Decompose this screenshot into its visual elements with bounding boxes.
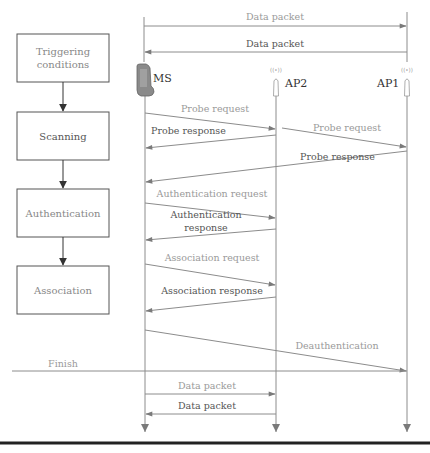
phase-box-triggering: Triggering conditions: [17, 34, 109, 82]
ap1-node: ((•)) AP1: [376, 67, 413, 96]
svg-text:((•)): ((•)): [270, 67, 282, 73]
ap2-node: ((•)) AP2: [270, 67, 307, 96]
handover-sequence-diagram: Triggering conditions Scanning Authentic…: [0, 0, 430, 453]
message-association-response: Association response: [146, 285, 276, 311]
phase-label-scanning: Scanning: [39, 131, 87, 142]
access-point-icon: ((•)): [401, 67, 413, 96]
message-data-packet-bottom-2: Data packet: [146, 400, 276, 414]
svg-text:Deauthentication: Deauthentication: [295, 340, 378, 351]
svg-text:response: response: [184, 222, 228, 233]
ap1-label: AP1: [376, 77, 399, 90]
svg-text:Probe request: Probe request: [181, 103, 249, 114]
svg-text:Authentication request: Authentication request: [156, 188, 268, 199]
svg-text:Data packet: Data packet: [246, 38, 304, 49]
ms-label: MS: [153, 72, 172, 85]
ap2-label: AP2: [284, 77, 307, 90]
phase-label-triggering-1: Triggering: [36, 46, 91, 57]
message-data-packet-top-2: Data packet: [145, 38, 407, 52]
message-probe-request-ap1: Probe request: [282, 122, 406, 147]
svg-text:Association response: Association response: [160, 285, 263, 296]
svg-text:Data packet: Data packet: [178, 380, 236, 391]
message-authentication-response: Authentication response: [146, 209, 276, 240]
phase-label-triggering-2: conditions: [37, 59, 89, 70]
phase-box-scanning: Scanning: [17, 112, 109, 160]
phase-box-association: Association: [17, 266, 109, 314]
message-data-packet-top-1: Data packet: [144, 11, 406, 26]
svg-text:Authentication: Authentication: [169, 209, 241, 220]
svg-text:Finish: Finish: [48, 358, 78, 369]
message-probe-response-ap2: Probe response: [146, 125, 276, 148]
phase-box-authentication: Authentication: [17, 189, 109, 237]
svg-text:Data packet: Data packet: [246, 11, 304, 22]
phase-label-association: Association: [33, 285, 93, 296]
svg-text:((•)): ((•)): [401, 67, 413, 73]
svg-text:Data packet: Data packet: [178, 400, 236, 411]
svg-text:Probe response: Probe response: [151, 125, 226, 136]
ms-node: MS: [137, 64, 172, 96]
message-data-packet-bottom-1: Data packet: [145, 380, 275, 394]
ms-lifeline-end: [141, 424, 149, 432]
svg-text:Probe request: Probe request: [313, 122, 381, 133]
phase-label-authentication: Authentication: [25, 208, 101, 219]
finish-line: Finish: [12, 358, 407, 371]
ap1-lifeline-end: [403, 424, 411, 432]
svg-text:Probe response: Probe response: [300, 151, 375, 162]
message-association-request: Association request: [145, 252, 275, 285]
ap2-lifeline-end: [272, 424, 280, 432]
svg-text:Association request: Association request: [164, 252, 260, 263]
access-point-icon: ((•)): [270, 67, 282, 96]
